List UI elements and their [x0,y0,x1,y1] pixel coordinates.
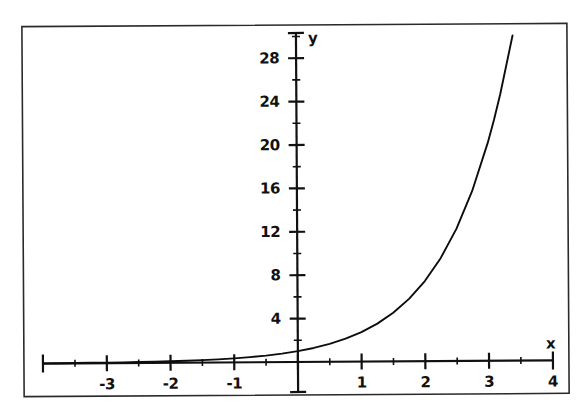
y-tick-label: 28 [259,49,279,67]
y-tick-label: 8 [270,266,280,284]
scan-frame-wrapper: -3-2-11234481216202428yx [0,0,588,415]
y-tick-label: 4 [271,310,281,328]
x-tick-label: 2 [420,373,430,391]
x-tick-label: 4 [548,372,558,390]
y-tick-label: 24 [259,93,279,111]
x-tick-label: 1 [357,374,367,392]
plot-canvas: -3-2-11234481216202428yx [0,0,588,415]
exponential-graph-figure: -3-2-11234481216202428yx [0,0,588,415]
x-tick-label: -3 [99,375,115,393]
y-tick-label: 20 [260,136,280,154]
y-axis-line [296,33,298,392]
x-tick-label: -1 [226,374,242,392]
x-tick-label: 3 [484,373,494,391]
x-axis-label: x [546,334,556,352]
x-tick-label: -2 [163,375,179,393]
y-axis-label: y [308,29,318,47]
y-tick-label: 16 [260,179,280,197]
y-tick-label: 12 [260,223,280,241]
